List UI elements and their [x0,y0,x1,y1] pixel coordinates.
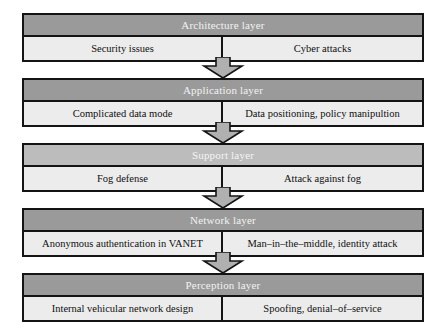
layer-block-perception: Perception layer Internal vehicular netw… [22,273,424,322]
layer-body-perception: Internal vehicular network design Spoofi… [24,297,422,320]
down-block-arrow-icon-2 [201,122,245,144]
layer-cell-application-right: Data positioning, policy manipultion [223,102,422,125]
layer-header-perception: Perception layer [24,275,422,297]
layered-architecture-diagram: Architecture layer Security issues Cyber… [0,0,444,328]
layer-cell-network-left: Anonymous authentication in VANET [24,232,223,255]
layer-cell-perception-left: Internal vehicular network design [24,297,223,320]
layer-cell-architecture-left: Security issues [24,37,223,60]
layer-header-architecture: Architecture layer [24,15,422,37]
down-block-arrow-icon-4 [201,252,245,274]
layer-cell-perception-right: Spoofing, denial–of–service [223,297,422,320]
layer-cell-support-right: Attack against fog [223,167,422,190]
layer-cell-architecture-right: Cyber attacks [223,37,422,60]
down-block-arrow-icon-3 [201,187,245,209]
layer-cell-network-right: Man–in–the–middle, identity attack [223,232,422,255]
layer-block-application: Application layer Complicated data mode … [22,78,424,127]
layer-header-application: Application layer [24,80,422,102]
layer-block-architecture: Architecture layer Security issues Cyber… [22,13,424,62]
layer-block-network: Network layer Anonymous authentication i… [22,208,424,257]
down-block-arrow-icon-1 [201,57,245,79]
layer-header-support: Support layer [24,145,422,167]
layer-header-network: Network layer [24,210,422,232]
layer-cell-support-left: Fog defense [24,167,223,190]
layer-cell-application-left: Complicated data mode [24,102,223,125]
layer-block-support: Support layer Fog defense Attack against… [22,143,424,192]
